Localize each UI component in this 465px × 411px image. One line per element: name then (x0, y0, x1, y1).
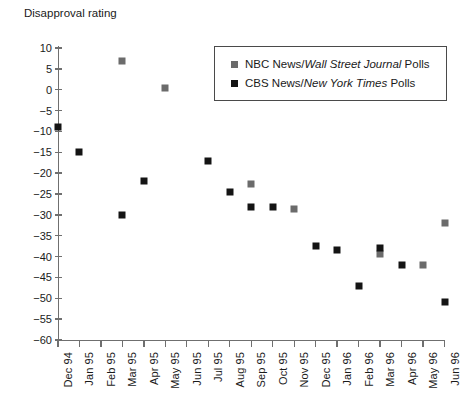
x-tick-mark (208, 340, 209, 347)
x-tick-mark (165, 340, 166, 347)
y-tick-mark (55, 193, 62, 194)
legend-swatch-cbs-icon (231, 80, 238, 87)
y-tick-label: −25 (22, 188, 52, 200)
data-point-cbs (269, 203, 276, 210)
data-point-cbs (312, 243, 319, 250)
x-tick-label: Dec 95 (320, 352, 332, 387)
x-tick-mark (57, 340, 58, 347)
legend-swatch-nbc-icon (231, 61, 238, 68)
y-tick-label: 5 (22, 63, 52, 75)
x-tick-label: Mar 95 (126, 352, 138, 387)
x-tick-mark (272, 340, 273, 347)
legend-label-nbc: NBC News/Wall Street Journal Polls (245, 58, 430, 70)
data-point-nbc (248, 180, 255, 187)
y-tick-label: −60 (22, 334, 52, 346)
data-point-cbs (119, 211, 126, 218)
y-tick-mark (55, 318, 62, 319)
y-tick-label: −20 (22, 167, 52, 179)
y-tick-label: −30 (22, 209, 52, 221)
data-point-cbs (355, 282, 362, 289)
y-tick-label: −15 (22, 146, 52, 158)
data-point-nbc (377, 251, 384, 258)
x-tick-mark (79, 340, 80, 347)
y-tick-mark (55, 68, 62, 69)
x-tick-label: Jun 95 (191, 352, 203, 386)
disapproval-rating-chart: Disapproval rating 1050−5−10−15−20−25−30… (0, 0, 465, 411)
y-tick-label: −5 (22, 105, 52, 117)
y-tick-label: −10 (22, 125, 52, 137)
legend-label-cbs: CBS News/New York Times Polls (245, 77, 415, 89)
y-tick-mark (55, 214, 62, 215)
x-tick-mark (422, 340, 423, 347)
x-tick-mark (251, 340, 252, 347)
y-tick-label: 10 (22, 42, 52, 54)
x-tick-label: May 96 (427, 352, 439, 389)
x-tick-label: Apr 95 (148, 352, 160, 385)
y-tick-mark (55, 110, 62, 111)
y-tick-mark (55, 298, 62, 299)
y-tick-label: 0 (22, 84, 52, 96)
legend-entry-cbs: CBS News/New York Times Polls (231, 77, 415, 89)
x-tick-mark (379, 340, 380, 347)
x-tick-label: Jun 96 (449, 352, 461, 386)
x-tick-label: Sep 95 (255, 352, 267, 387)
x-tick-mark (143, 340, 144, 347)
y-tick-label: −40 (22, 251, 52, 263)
data-point-cbs (140, 178, 147, 185)
x-tick-label: May 95 (169, 352, 181, 389)
x-tick-label: Nov 95 (298, 352, 310, 387)
x-tick-label: Dec 94 (62, 352, 74, 387)
data-point-nbc (119, 57, 126, 64)
chart-legend: NBC News/Wall Street Journal Polls CBS N… (214, 46, 447, 101)
legend-entry-nbc: NBC News/Wall Street Journal Polls (231, 58, 430, 70)
x-tick-label: Feb 96 (363, 352, 375, 387)
x-tick-mark (401, 340, 402, 347)
x-tick-label: Jul 95 (212, 352, 224, 382)
x-tick-mark (294, 340, 295, 347)
y-tick-mark (55, 172, 62, 173)
data-point-cbs (334, 247, 341, 254)
x-tick-mark (444, 340, 445, 347)
y-tick-mark (55, 131, 62, 132)
x-tick-mark (336, 340, 337, 347)
x-tick-label: Oct 95 (277, 352, 289, 385)
x-tick-label: Mar 96 (384, 352, 396, 387)
legend-label-cbs-prefix: CBS News/ (245, 77, 304, 89)
legend-label-nbc-prefix: NBC News/ (245, 58, 304, 70)
data-point-cbs (55, 124, 62, 131)
legend-label-cbs-italic: New York Times (304, 77, 387, 89)
data-point-cbs (205, 157, 212, 164)
legend-label-nbc-italic: Wall Street Journal (304, 58, 401, 70)
y-tick-mark (55, 235, 62, 236)
y-tick-label: −55 (22, 313, 52, 325)
data-point-cbs (76, 149, 83, 156)
x-tick-mark (186, 340, 187, 347)
y-tick-label: −45 (22, 271, 52, 283)
x-tick-label: Jan 96 (341, 352, 353, 386)
x-tick-mark (229, 340, 230, 347)
legend-label-cbs-suffix: Polls (387, 77, 415, 89)
x-tick-mark (358, 340, 359, 347)
x-tick-mark (100, 340, 101, 347)
data-point-cbs (441, 299, 448, 306)
legend-label-nbc-suffix: Polls (401, 58, 429, 70)
y-tick-label: −35 (22, 230, 52, 242)
y-tick-label: −50 (22, 292, 52, 304)
y-tick-mark (55, 152, 62, 153)
data-point-nbc (441, 220, 448, 227)
data-point-cbs (248, 203, 255, 210)
y-tick-mark (55, 89, 62, 90)
data-point-nbc (162, 84, 169, 91)
data-point-nbc (291, 205, 298, 212)
y-tick-mark (55, 47, 62, 48)
x-tick-mark (315, 340, 316, 347)
x-tick-mark (122, 340, 123, 347)
y-tick-mark (55, 277, 62, 278)
data-point-cbs (398, 261, 405, 268)
x-tick-label: Feb 95 (105, 352, 117, 387)
x-tick-label: Aug 95 (234, 352, 246, 387)
x-tick-label: Jan 95 (83, 352, 95, 386)
data-point-cbs (377, 245, 384, 252)
data-point-nbc (420, 261, 427, 268)
x-tick-label: Apr 96 (406, 352, 418, 385)
